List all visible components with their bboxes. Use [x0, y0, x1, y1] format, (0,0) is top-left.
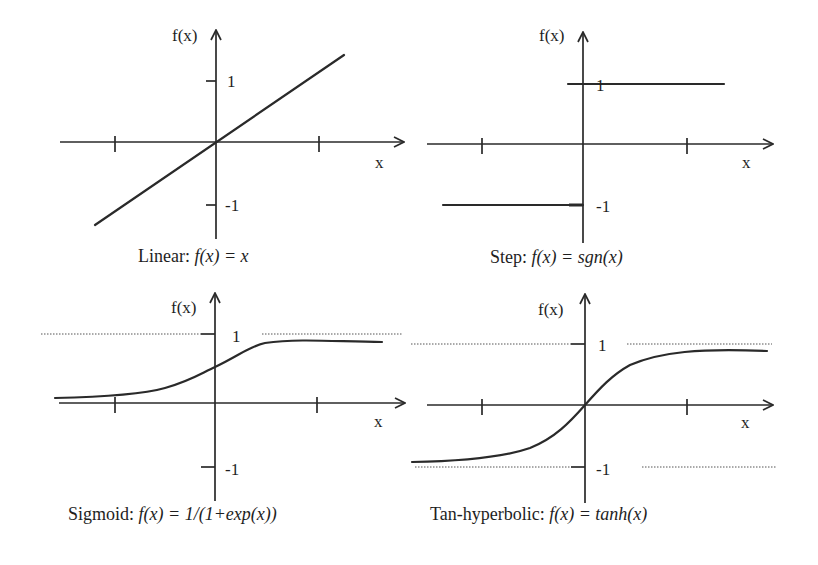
caption-sigmoid: Sigmoid: f(x) = 1/(1+exp(x))	[68, 504, 277, 525]
y-axis-label: f(x)	[171, 298, 196, 317]
y-tick-label-pos: 1	[232, 327, 241, 346]
caption-step: Step: f(x) = sgn(x)	[490, 247, 623, 268]
x-axis-label: x	[374, 412, 383, 431]
caption-tanh: Tan-hyperbolic: f(x) = tanh(x)	[430, 504, 647, 525]
panel-sigmoid: f(x) x 1 -1 Sigmoid: f(x) = 1/(1+exp(x))	[41, 293, 405, 525]
y-tick-label-pos: 1	[598, 336, 607, 355]
tanh-curve	[412, 350, 767, 462]
x-axis-label: x	[742, 153, 751, 172]
sigmoid-curve	[55, 340, 382, 398]
y-tick-label-neg: -1	[225, 196, 239, 215]
y-tick-label-neg: -1	[596, 197, 610, 216]
x-axis-label: x	[741, 413, 750, 432]
y-tick-label-pos: 1	[596, 76, 605, 95]
caption-linear: Linear: f(x) = x	[138, 246, 249, 267]
y-tick-label-neg: -1	[596, 460, 610, 479]
y-tick-label-neg: -1	[225, 460, 239, 479]
activation-functions-figure: f(x) x 1 -1 Linear: f(x) = x f(x) x 1 -1…	[0, 0, 818, 565]
y-axis-label: f(x)	[172, 26, 197, 45]
x-axis-label: x	[375, 153, 384, 172]
linear-curve	[95, 55, 344, 225]
y-axis-label: f(x)	[539, 26, 564, 45]
panel-tanh: f(x) x 1 -1 Tan-hyperbolic: f(x) = tanh(…	[411, 294, 776, 525]
panel-linear: f(x) x 1 -1 Linear: f(x) = x	[60, 26, 404, 267]
y-tick-label-pos: 1	[227, 72, 236, 91]
panel-step: f(x) x 1 -1 Step: f(x) = sgn(x)	[427, 26, 773, 268]
y-axis-label: f(x)	[538, 300, 563, 319]
